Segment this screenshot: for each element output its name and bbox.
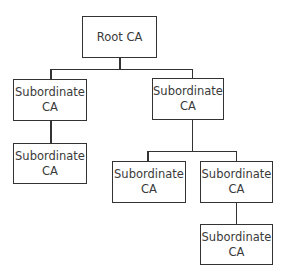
connector-child-b-to-leaf: [236, 203, 238, 224]
connector-sub-left-to-child: [50, 121, 52, 143]
connector-root-down: [119, 58, 121, 69]
connector-to-child-b: [236, 151, 238, 161]
node-label-line1: Subordinate: [114, 167, 184, 182]
node-label-line1: Subordinate: [15, 85, 85, 100]
ca-hierarchy-diagram: Root CA Subordinate CA Subordinate CA Su…: [0, 0, 288, 277]
connector-level1-horizontal: [50, 69, 193, 71]
node-label-line2: CA: [229, 245, 245, 260]
node-label-line1: Subordinate: [202, 167, 272, 182]
node-subordinate-ca-leaf: Subordinate CA: [200, 224, 273, 265]
connector-to-child-a: [147, 151, 149, 161]
node-subordinate-ca-right-child-a: Subordinate CA: [112, 161, 186, 203]
node-subordinate-ca-right: Subordinate CA: [152, 78, 224, 120]
node-label-line2: CA: [42, 100, 58, 115]
node-label-line2: CA: [141, 182, 157, 197]
node-subordinate-ca-right-child-b: Subordinate CA: [200, 161, 273, 203]
connector-level2-horizontal: [147, 151, 237, 153]
node-root-ca: Root CA: [82, 16, 157, 58]
node-label-line2: CA: [180, 99, 196, 114]
node-label-line2: CA: [42, 164, 58, 179]
node-label-line2: CA: [229, 182, 245, 197]
node-subordinate-ca-left: Subordinate CA: [13, 79, 87, 121]
node-label: Root CA: [97, 30, 143, 45]
connector-to-sub-left: [50, 69, 52, 79]
connector-to-sub-right: [192, 69, 194, 78]
node-label-line1: Subordinate: [202, 230, 272, 245]
node-subordinate-ca-left-child: Subordinate CA: [13, 143, 87, 184]
node-label-line1: Subordinate: [153, 84, 223, 99]
node-label-line1: Subordinate: [15, 149, 85, 164]
connector-sub-right-down: [192, 120, 194, 151]
